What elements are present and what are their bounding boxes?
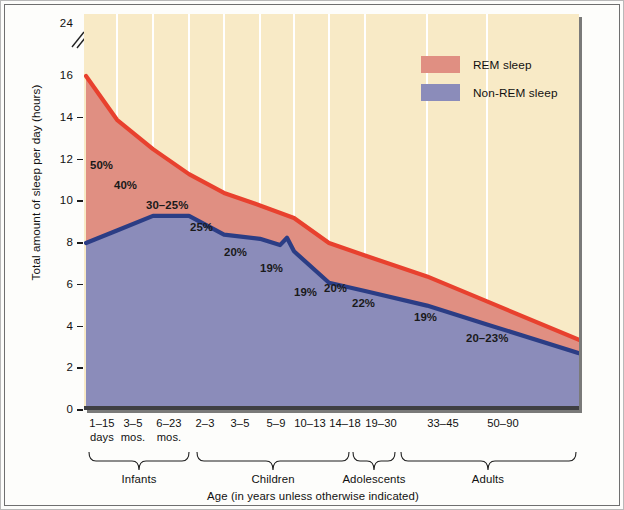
plot-area: 50%40%30–25%25%20%19%19%20%22%19%20–23% …	[84, 14, 579, 410]
y-tick-mark-10	[77, 200, 83, 202]
y-tick-mark-8	[77, 242, 83, 244]
rem-percent-label: 25%	[190, 221, 213, 233]
x-tick-line2: mos.	[134, 430, 204, 444]
rem-percent-label: 30–25%	[146, 199, 188, 211]
y-tick-label-14: 14	[39, 111, 73, 123]
y-tick-label-24: 24	[39, 17, 73, 29]
rem-percent-label: 50%	[90, 159, 113, 171]
y-tick-label-0: 0	[39, 403, 73, 415]
y-tick-mark-4	[77, 326, 83, 328]
rem-percent-label: 19%	[260, 262, 283, 274]
rem-percent-label: 19%	[294, 286, 317, 298]
group-brace	[353, 452, 395, 470]
rem-percent-label: 40%	[114, 179, 137, 191]
group-brace	[197, 452, 349, 470]
y-tick-mark-12	[77, 159, 83, 161]
rem-percent-label: 20%	[324, 282, 347, 294]
rem-percent-label: 19%	[414, 311, 437, 323]
y-tick-mark-2	[77, 367, 83, 369]
legend-swatch-nonrem	[421, 84, 460, 101]
y-tick-label-6: 6	[39, 278, 73, 290]
y-tick-label-2: 2	[39, 361, 73, 373]
age-group-label: Adults	[408, 473, 568, 485]
y-tick-mark-6	[77, 284, 83, 286]
group-brace	[89, 452, 189, 470]
x-tick-label-10: 50–90	[468, 416, 538, 430]
figure-panel: Total amount of sleep per day (hours) 02…	[0, 0, 624, 510]
y-tick-label-10: 10	[39, 194, 73, 206]
legend-label-rem: REM sleep	[473, 58, 532, 72]
rem-percent-label: 20–23%	[466, 332, 508, 344]
x-tick-line1: 19–30	[346, 416, 416, 430]
legend-swatch-rem	[421, 56, 460, 73]
legend-item-rem: REM sleep	[421, 56, 558, 73]
x-tick-line1: 50–90	[468, 416, 538, 430]
y-tick-label-12: 12	[39, 153, 73, 165]
legend-item-nonrem: Non-REM sleep	[421, 84, 558, 101]
y-tick-mark-0	[77, 409, 83, 411]
legend: REM sleep Non-REM sleep	[421, 56, 558, 112]
rem-percent-label: 20%	[224, 246, 247, 258]
y-tick-label-8: 8	[39, 236, 73, 248]
x-axis-title: Age (in years unless otherwise indicated…	[1, 490, 624, 502]
y-tick-label-16: 16	[39, 69, 73, 81]
x-tick-label-8: 19–30	[346, 416, 416, 430]
rem-percent-label: 22%	[352, 297, 375, 309]
legend-label-nonrem: Non-REM sleep	[473, 86, 558, 100]
group-brace	[401, 452, 576, 470]
y-tick-label-4: 4	[39, 320, 73, 332]
y-tick-mark-14	[77, 117, 83, 119]
